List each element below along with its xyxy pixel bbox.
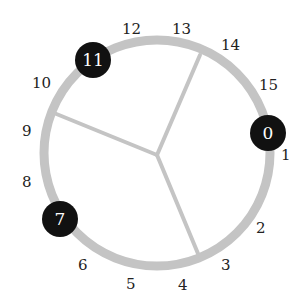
position-label-14: 14 <box>221 36 240 54</box>
position-label-4: 4 <box>178 276 188 294</box>
position-label-1: 1 <box>281 146 291 164</box>
spoke-top <box>157 55 200 155</box>
node-0-label: 0 <box>263 123 274 143</box>
position-label-8: 8 <box>22 173 32 191</box>
position-label-13: 13 <box>172 20 191 38</box>
position-label-5: 5 <box>126 275 136 293</box>
node-11-label: 11 <box>82 50 104 70</box>
ring-diagram: 1 2 3 4 5 6 8 9 10 12 13 14 15 0 7 11 <box>0 0 300 308</box>
spoke-left <box>54 113 157 155</box>
node-11: 11 <box>75 42 111 78</box>
position-label-10: 10 <box>32 74 51 92</box>
position-label-6: 6 <box>78 256 88 274</box>
node-0: 0 <box>250 115 286 151</box>
position-label-2: 2 <box>256 219 266 237</box>
position-label-3: 3 <box>221 256 231 274</box>
position-label-15: 15 <box>259 76 278 94</box>
node-7-label: 7 <box>55 209 66 229</box>
position-label-12: 12 <box>122 20 141 38</box>
node-7: 7 <box>42 201 78 237</box>
position-label-9: 9 <box>22 122 32 140</box>
spoke-bottom <box>157 155 199 256</box>
